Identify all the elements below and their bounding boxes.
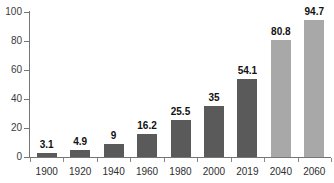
x-axis-label-1920: 1920 bbox=[63, 166, 96, 177]
x-axis-tick bbox=[164, 158, 165, 162]
x-axis-label-1900: 1900 bbox=[30, 166, 63, 177]
y-axis-tick-label: 80 bbox=[0, 36, 22, 46]
bar-1900 bbox=[37, 153, 57, 157]
bar-2060 bbox=[304, 20, 324, 157]
bar-value-label-2019: 54.1 bbox=[231, 66, 264, 76]
x-axis-label-2019: 2019 bbox=[231, 166, 264, 177]
bar-1980 bbox=[171, 120, 191, 157]
bar-value-label-1920: 4.9 bbox=[63, 137, 96, 147]
bar-1940 bbox=[104, 144, 124, 157]
y-axis-tick-label: 100 bbox=[0, 7, 22, 17]
bar-2019 bbox=[237, 79, 257, 157]
x-axis-label-1940: 1940 bbox=[97, 166, 130, 177]
bar-2040 bbox=[271, 40, 291, 157]
y-axis-tick bbox=[24, 41, 29, 42]
bar-1920 bbox=[70, 150, 90, 157]
x-axis-tick bbox=[264, 158, 265, 162]
y-axis-tick-label: 40 bbox=[0, 94, 22, 104]
x-axis-label-1960: 1960 bbox=[130, 166, 163, 177]
y-axis-tick bbox=[24, 128, 29, 129]
x-axis-tick bbox=[197, 158, 198, 162]
y-axis-tick bbox=[24, 157, 29, 158]
x-axis-label-2040: 2040 bbox=[264, 166, 297, 177]
x-axis-label-2060: 2060 bbox=[298, 166, 331, 177]
y-axis-tick bbox=[24, 12, 29, 13]
bar-value-label-2060: 94.7 bbox=[298, 7, 331, 17]
bar-value-label-2000: 35 bbox=[197, 93, 230, 103]
y-axis-tick-label: 60 bbox=[0, 65, 22, 75]
x-axis-tick bbox=[97, 158, 98, 162]
bar-chart-figure: 020406080100 190019201940196019802000201… bbox=[0, 0, 334, 183]
x-axis-tick bbox=[298, 158, 299, 162]
x-axis-spine bbox=[29, 157, 331, 158]
bar-value-label-1900: 3.1 bbox=[30, 140, 63, 150]
bar-value-label-2040: 80.8 bbox=[264, 27, 297, 37]
chart-title bbox=[0, 0, 334, 2]
bar-1960 bbox=[137, 134, 157, 157]
x-axis-label-2000: 2000 bbox=[197, 166, 230, 177]
x-axis-tick bbox=[30, 158, 31, 162]
x-axis-tick bbox=[63, 158, 64, 162]
bar-value-label-1960: 16.2 bbox=[130, 121, 163, 131]
y-axis-tick-label: 20 bbox=[0, 123, 22, 133]
bar-2000 bbox=[204, 106, 224, 157]
y-axis-tick-label: 0 bbox=[0, 152, 22, 162]
y-axis-tick bbox=[24, 70, 29, 71]
bar-value-label-1940: 9 bbox=[97, 131, 130, 141]
x-axis-tick bbox=[231, 158, 232, 162]
x-axis-tick bbox=[331, 158, 332, 162]
bar-value-label-1980: 25.5 bbox=[164, 107, 197, 117]
x-axis-tick bbox=[130, 158, 131, 162]
x-axis-label-1980: 1980 bbox=[164, 166, 197, 177]
y-axis-tick bbox=[24, 99, 29, 100]
